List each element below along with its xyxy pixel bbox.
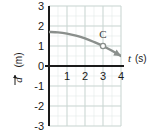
y-axis-title-unit: (m) xyxy=(13,53,24,68)
x-tick-label: 1 xyxy=(64,70,70,82)
y-tick-label: 2 xyxy=(38,20,44,32)
position-time-graph: 3210-1-2-3 1234 C t (s) d (m) xyxy=(0,0,160,139)
x-axis-title-unit: (s) xyxy=(135,53,147,64)
y-tick-label: -1 xyxy=(34,80,44,92)
annotation-point-c: C xyxy=(99,28,106,49)
chart-canvas: 3210-1-2-3 1234 C t (s) d (m) xyxy=(0,0,160,139)
x-tick-label: 2 xyxy=(82,70,88,82)
figure-background xyxy=(0,0,160,139)
y-tick-label: -2 xyxy=(34,100,44,112)
x-tick-label: 4 xyxy=(118,70,124,82)
y-tick-label: -3 xyxy=(34,120,44,132)
y-tick-label: 1 xyxy=(38,40,44,52)
x-tick-label: 3 xyxy=(100,70,106,82)
y-tick-label: 3 xyxy=(38,0,44,12)
point-c-label: C xyxy=(99,28,106,40)
y-tick-label: 0 xyxy=(38,60,44,72)
point-c-marker xyxy=(100,43,105,48)
